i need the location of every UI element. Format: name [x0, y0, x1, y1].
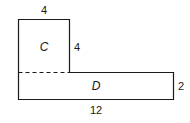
- composite-figure-diagram: 4 4 2 12 C D: [0, 0, 190, 123]
- bottom-width-label: 12: [90, 104, 102, 116]
- region-d-label: D: [92, 79, 101, 93]
- top-width-label: 4: [41, 4, 47, 16]
- region-c-label: C: [40, 40, 49, 54]
- square-side-label: 4: [74, 41, 80, 53]
- rect-height-label: 2: [178, 80, 184, 92]
